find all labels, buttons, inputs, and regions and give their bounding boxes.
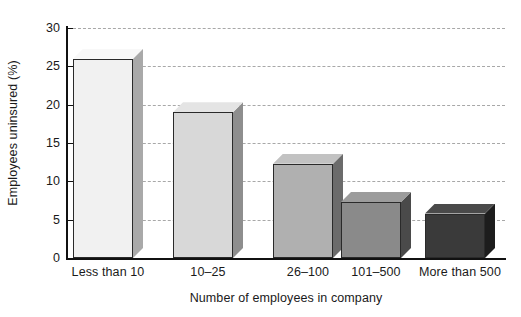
bar-front-face <box>173 112 233 258</box>
bar-side-face <box>401 192 411 258</box>
plot-area <box>66 28 505 258</box>
bar-top-face <box>173 102 243 112</box>
bar-top-face <box>341 192 411 202</box>
bar-front-face <box>273 164 333 258</box>
bar-front-face <box>341 202 401 258</box>
y-axis-tick-label: 5 <box>34 213 60 227</box>
bar-chart-figure: Employees uninsured (%) 051015202530 Les… <box>0 0 521 317</box>
y-axis-tick-label: 15 <box>34 136 60 150</box>
y-axis-tick-label: 20 <box>34 98 60 112</box>
x-axis-title: Number of employees in company <box>66 291 506 305</box>
x-axis-tick-label: Less than 10 <box>72 265 145 279</box>
y-axis-tick-labels: 051015202530 <box>32 0 60 317</box>
x-axis-line <box>66 258 506 260</box>
bar-side-face <box>233 102 243 258</box>
bar-top-face <box>73 49 143 59</box>
bar-top-face <box>273 154 343 164</box>
bar <box>425 204 495 258</box>
bar <box>73 49 143 258</box>
bar <box>273 154 343 258</box>
x-axis-tick-label: More than 500 <box>419 265 501 279</box>
bar-side-face <box>133 49 143 258</box>
bar-front-face <box>425 214 485 258</box>
x-axis-tick-label: 10–25 <box>190 265 225 279</box>
bar-top-face <box>425 204 495 214</box>
y-axis-tick-label: 30 <box>34 21 60 35</box>
y-axis-title: Employees uninsured (%) <box>2 4 24 262</box>
x-axis-tick-label: 26–100 <box>287 265 329 279</box>
bar-front-face <box>73 59 133 258</box>
y-axis-tick-label: 0 <box>34 251 60 265</box>
bar <box>341 192 411 258</box>
bar <box>173 102 243 258</box>
y-axis-tick-label: 25 <box>34 59 60 73</box>
x-axis-tick-label: 101–500 <box>351 265 400 279</box>
y-axis-tick-label: 10 <box>34 174 60 188</box>
